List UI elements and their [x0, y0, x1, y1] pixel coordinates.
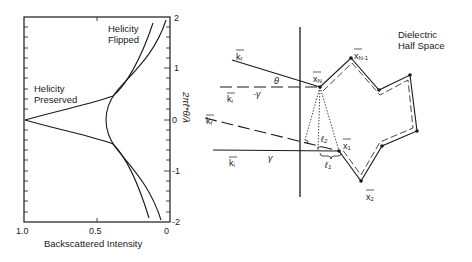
ytick-2: 2 [174, 13, 179, 23]
kf-bottom-label: kf [206, 116, 213, 126]
label-preserved-line1: Helicity [34, 83, 65, 94]
xtick-1: 1.0 [16, 226, 29, 236]
point-4 [408, 73, 412, 77]
xtick-0: 0 [164, 226, 169, 236]
point-3 [377, 88, 381, 92]
point-xN-1 [349, 56, 353, 60]
l2-label: ℓ2 [320, 134, 328, 144]
point-xN [318, 85, 322, 89]
ytick-1: 1 [174, 63, 179, 73]
l1-brace [320, 153, 341, 159]
theta-label: θ [274, 76, 279, 86]
xtick-05: 0.5 [89, 226, 102, 236]
ki-bottom-label: ki [229, 158, 235, 168]
y-axis-label: 2πℓ*θ/λ [181, 91, 192, 123]
ki-top-label: ki [227, 94, 233, 104]
ytick-0: 0 [172, 115, 177, 125]
label-flipped-line2: Flipped [108, 34, 139, 45]
right-ticks [164, 27, 170, 212]
xN-label: xN [313, 74, 322, 84]
l1-label: ℓ1 [324, 160, 331, 170]
vector-arrows [206, 49, 374, 190]
point-5 [415, 129, 419, 133]
ytick-neg2: -2 [172, 217, 180, 227]
neg-gamma-label: -γ [253, 89, 261, 99]
x1-label: x1 [343, 141, 352, 151]
curve-helicity-preserved-lower [25, 120, 149, 218]
kf-top-label: kf [236, 52, 243, 62]
gamma-label: γ [268, 153, 273, 163]
figure: 2 1 0 -1 -2 1.0 0.5 0 Backscattered Inte… [0, 0, 472, 262]
point-6 [380, 144, 384, 148]
x2-label: x2 [366, 192, 375, 202]
intensity-plot [24, 17, 170, 222]
x-axis-label: Backscattered Intensity [44, 238, 142, 249]
dielectric-label-line1: Dielectric [398, 29, 437, 40]
point-x2 [359, 179, 363, 183]
ytick-neg1: -1 [172, 166, 180, 176]
xN-1-label: xN-1 [354, 51, 369, 61]
label-flipped-line1: Helicity [108, 23, 139, 34]
dielectric-label-line2: Half Space [398, 40, 444, 51]
label-preserved-line2: Preserved [34, 94, 77, 105]
scattering-path [320, 58, 417, 181]
point-x1 [337, 149, 341, 153]
ki-bottom-ray [213, 150, 339, 151]
kf-bottom-ray [205, 118, 339, 151]
curve-helicity-flipped-lower [106, 120, 161, 220]
